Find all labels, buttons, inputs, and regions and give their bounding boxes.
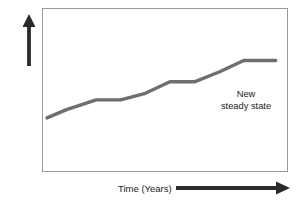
x-axis-label: Time (Years) <box>42 183 176 194</box>
annotation-line1: New <box>206 89 286 101</box>
x-axis: Time (Years) <box>42 174 300 202</box>
annotation-new-steady-state-1: New steady state <box>206 89 286 112</box>
y-axis: Positive energy balance and weight gain <box>0 8 42 172</box>
annotation-line2: steady state <box>206 101 286 113</box>
x-axis-arrow-icon <box>176 181 291 195</box>
y-axis-arrow-icon <box>22 14 36 66</box>
chart-figure: Positive energy balance and weight gain … <box>0 0 300 202</box>
